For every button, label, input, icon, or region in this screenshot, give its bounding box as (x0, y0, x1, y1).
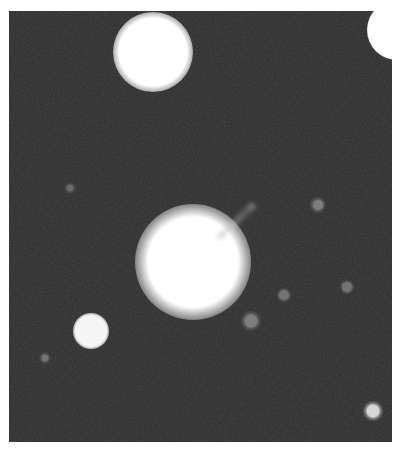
faint-blob-4 (340, 280, 354, 294)
faint-blob-2 (277, 288, 291, 302)
bright-star-top-left (113, 12, 193, 92)
small-star-bottom-right (363, 401, 383, 421)
faint-blob-3 (241, 311, 261, 331)
star-field (9, 11, 392, 442)
small-star-left (73, 313, 109, 349)
faint-blob-5 (39, 352, 51, 364)
faint-blob-6 (64, 182, 76, 194)
faint-blob-1 (310, 197, 326, 213)
